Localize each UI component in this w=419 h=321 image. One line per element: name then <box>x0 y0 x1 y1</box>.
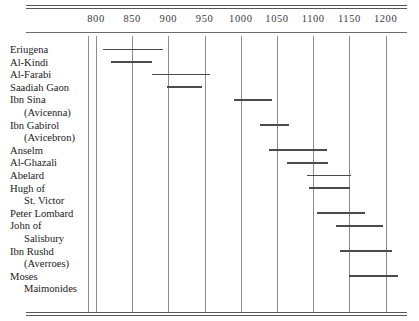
row-label: Saadiah Gaon <box>10 82 86 95</box>
x-tick-label-800: 800 <box>87 13 105 24</box>
row-label-line: Maimonides <box>10 283 86 296</box>
timeline-row[interactable]: Al-Ghazali <box>0 157 419 170</box>
lifespan-bar[interactable] <box>309 187 350 189</box>
timeline-row[interactable]: Ibn Sina(Avicenna) <box>0 94 419 119</box>
timeline-row[interactable]: MosesMaimonides <box>0 271 419 296</box>
lifespan-bar[interactable] <box>260 124 289 126</box>
row-label: Al-Farabi <box>10 69 86 82</box>
row-label: Eriugena <box>10 44 86 57</box>
row-label-line: Anselm <box>10 145 86 158</box>
x-tick-label-900: 900 <box>160 13 178 24</box>
timeline-row[interactable]: Al-Farabi <box>0 69 419 82</box>
x-tick-label-1200: 1200 <box>374 13 397 24</box>
x-axis-tick-labels: 80085090095010001050110011501200 <box>0 13 419 31</box>
timeline-row[interactable]: Abelard <box>0 170 419 183</box>
bottom-rule-outer <box>26 315 407 316</box>
lifespan-bar[interactable] <box>336 225 383 227</box>
lifespan-bar[interactable] <box>103 49 163 51</box>
timeline-row[interactable]: Eriugena <box>0 44 419 57</box>
row-label: Hugh ofSt. Victor <box>10 183 86 208</box>
lifespan-bar[interactable] <box>307 175 351 177</box>
lifespan-bar[interactable] <box>234 99 272 101</box>
x-tick-label-850: 850 <box>123 13 141 24</box>
timeline-row[interactable]: Al-Kindi <box>0 57 419 70</box>
top-rule-inner <box>26 8 407 9</box>
row-label-line: Saadiah Gaon <box>10 82 86 95</box>
timeline-row[interactable]: Anselm <box>0 145 419 158</box>
row-label-line: Al-Farabi <box>10 69 86 82</box>
row-label: Abelard <box>10 170 86 183</box>
row-label-line: Moses <box>10 271 86 284</box>
row-label-line: Ibn Gabirol <box>10 120 86 133</box>
x-tick-label-1100: 1100 <box>302 13 325 24</box>
row-label: MosesMaimonides <box>10 271 86 296</box>
lifespan-bar[interactable] <box>269 149 327 151</box>
x-tick-label-1050: 1050 <box>265 13 288 24</box>
lifespan-bar[interactable] <box>111 61 152 63</box>
row-label: Al-Ghazali <box>10 157 86 170</box>
row-label: Ibn Sina(Avicenna) <box>10 94 86 119</box>
row-label-line: Ibn Sina <box>10 94 86 107</box>
row-label-line: Salisbury <box>10 233 86 246</box>
row-label-line: (Avicebron) <box>10 132 86 145</box>
header-separator-rule <box>26 32 407 33</box>
row-label-line: Eriugena <box>10 44 86 57</box>
row-label-line: Al-Kindi <box>10 57 86 70</box>
row-label: Al-Kindi <box>10 57 86 70</box>
row-label-line: John of <box>10 220 86 233</box>
x-tick-label-950: 950 <box>196 13 214 24</box>
lifespan-bar[interactable] <box>287 162 328 164</box>
timeline-row[interactable]: Ibn Gabirol(Avicebron) <box>0 120 419 145</box>
bottom-rule-inner <box>26 312 407 313</box>
lifespan-bar[interactable] <box>152 74 211 76</box>
timeline-row[interactable]: Hugh ofSt. Victor <box>0 183 419 208</box>
timeline-row[interactable]: Peter Lombard <box>0 208 419 221</box>
timeline-row[interactable]: Saadiah Gaon <box>0 82 419 95</box>
row-label-line: St. Victor <box>10 195 86 208</box>
timeline-chart: 80085090095010001050110011501200 Eriugen… <box>0 0 419 321</box>
row-label-line: (Avicenna) <box>10 107 86 120</box>
row-label-line: Al-Ghazali <box>10 157 86 170</box>
lifespan-bar[interactable] <box>349 275 398 277</box>
x-tick-label-1000: 1000 <box>229 13 252 24</box>
lifespan-bar[interactable] <box>317 212 366 214</box>
plot-area: EriugenaAl-KindiAl-FarabiSaadiah GaonIbn… <box>0 36 419 312</box>
row-label: John ofSalisbury <box>10 220 86 245</box>
row-label: Ibn Rushd(Averroes) <box>10 246 86 271</box>
row-label: Ibn Gabirol(Avicebron) <box>10 120 86 145</box>
top-rule-outer <box>26 5 407 6</box>
x-tick-label-1150: 1150 <box>338 13 361 24</box>
row-label: Anselm <box>10 145 86 158</box>
lifespan-bar[interactable] <box>340 250 392 252</box>
timeline-row[interactable]: John ofSalisbury <box>0 220 419 245</box>
row-label: Peter Lombard <box>10 208 86 221</box>
row-label-line: Abelard <box>10 170 86 183</box>
row-label-line: Hugh of <box>10 183 86 196</box>
row-label-line: Peter Lombard <box>10 208 86 221</box>
row-label-line: (Averroes) <box>10 258 86 271</box>
timeline-row[interactable]: Ibn Rushd(Averroes) <box>0 246 419 271</box>
row-label-line: Ibn Rushd <box>10 246 86 259</box>
lifespan-bar[interactable] <box>167 86 202 88</box>
